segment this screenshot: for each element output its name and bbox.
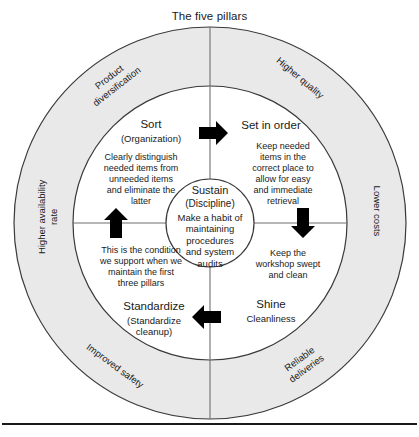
pillar-standardize-subtitle: (Standardize cleanup) xyxy=(113,315,195,337)
pillar-shine-name: Shine xyxy=(236,298,306,312)
pillar-set-in-order-name: Set in order xyxy=(226,119,316,133)
pillar-standardize-name: Standardize xyxy=(112,300,196,314)
pillar-sort-name: Sort xyxy=(111,118,191,132)
center-pillar-description: Make a habit of maintaining procedures a… xyxy=(164,212,256,269)
ring-label-lower-costs: Lower costs xyxy=(371,156,383,266)
diagram-canvas: The five pillars Product diversification… xyxy=(0,0,419,437)
pillar-sort-subtitle: (Organization) xyxy=(106,133,196,144)
bottom-divider xyxy=(2,423,417,425)
pillar-shine-subtitle: Cleanliness xyxy=(228,313,314,324)
ring-label-higher-availability-rate: Higher availability rate xyxy=(36,162,60,272)
center-pillar-subtitle: (Discipline) xyxy=(164,198,256,210)
page-title: The five pillars xyxy=(0,10,419,22)
center-pillar-name: Sustain xyxy=(164,184,256,197)
